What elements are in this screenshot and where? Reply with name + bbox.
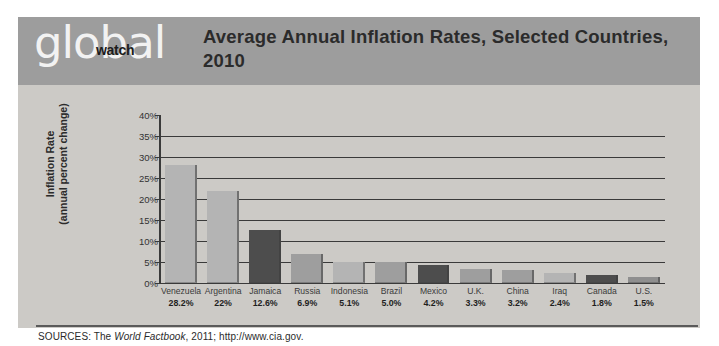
header-band: global watch Average Annual Inflation Ra… — [18, 17, 700, 85]
bar-slot — [623, 115, 665, 283]
bar-slot — [286, 115, 328, 283]
plot-canvas — [160, 115, 665, 283]
category-name: Jamaica — [244, 285, 286, 297]
category-group: Mexico4.2% — [412, 285, 454, 319]
category-value: 1.8% — [581, 297, 623, 309]
bar-canada — [586, 275, 618, 283]
bar-slot — [497, 115, 539, 283]
category-name: Indonesia — [328, 285, 370, 297]
category-group: U.K.3.3% — [455, 285, 497, 319]
category-value: 1.5% — [623, 297, 665, 309]
y-axis-tick-40: 40% — [114, 110, 158, 121]
y-tick-mark — [155, 115, 160, 116]
category-value: 28.2% — [160, 297, 202, 309]
category-group: China3.2% — [497, 285, 539, 319]
y-tick-mark — [155, 178, 160, 179]
bar-argentina — [207, 191, 239, 283]
category-group: Russia6.9% — [286, 285, 328, 319]
category-name: U.S. — [623, 285, 665, 297]
y-axis-label-line1: Inflation Rate — [44, 79, 57, 249]
footer-divider — [36, 325, 698, 327]
category-name: Brazil — [370, 285, 412, 297]
category-name: Argentina — [202, 285, 244, 297]
category-group: Indonesia5.1% — [328, 285, 370, 319]
y-axis-tick-0: 0% — [114, 278, 158, 289]
y-axis-tick-35: 35% — [114, 131, 158, 142]
chart-card: global watch Average Annual Inflation Ra… — [18, 17, 700, 328]
y-axis-tick-labels: 0%5%10%15%20%25%30%35%40% — [114, 115, 158, 283]
category-value: 5.0% — [370, 297, 412, 309]
y-tick-mark — [155, 136, 160, 137]
y-tick-mark — [155, 283, 160, 284]
y-axis-tick-25: 25% — [114, 173, 158, 184]
bar-slot — [581, 115, 623, 283]
category-value: 3.3% — [455, 297, 497, 309]
bar-russia — [291, 254, 323, 283]
y-axis-label: Inflation Rate (annual percent change) — [44, 79, 78, 249]
category-value: 6.9% — [286, 297, 328, 309]
category-value: 4.2% — [412, 297, 454, 309]
y-tick-mark — [155, 157, 160, 158]
category-name: U.K. — [455, 285, 497, 297]
y-axis-label-line2: (annual percent change) — [57, 79, 70, 249]
bar-brazil — [375, 262, 407, 283]
sources-prefix: SOURCES: The — [38, 331, 114, 342]
x-axis-categories: Venezuela28.2%Argentina22%Jamaica12.6%Ru… — [160, 285, 665, 319]
category-name: Mexico — [412, 285, 454, 297]
global-watch-logo: global watch — [34, 19, 194, 75]
category-value: 2.4% — [539, 297, 581, 309]
bar-slot — [539, 115, 581, 283]
sources-suffix: , 2011; http://www.cia.gov. — [186, 331, 304, 342]
y-axis-tick-15: 15% — [114, 215, 158, 226]
category-value: 22% — [202, 297, 244, 309]
y-axis-tick-5: 5% — [114, 257, 158, 268]
bar-china — [502, 270, 534, 283]
y-axis-tick-30: 30% — [114, 152, 158, 163]
bar-slot — [160, 115, 202, 283]
category-group: Venezuela28.2% — [160, 285, 202, 319]
bar-u-s — [628, 277, 660, 283]
bar-mexico — [418, 265, 450, 283]
category-group: Brazil5.0% — [370, 285, 412, 319]
page-root: global watch Average Annual Inflation Ra… — [0, 0, 719, 346]
bar-slot — [328, 115, 370, 283]
category-group: U.S.1.5% — [623, 285, 665, 319]
bar-slot — [370, 115, 412, 283]
bar-venezuela — [165, 165, 197, 283]
bar-slot — [412, 115, 454, 283]
bar-slot — [202, 115, 244, 283]
bar-slot — [244, 115, 286, 283]
bar-series — [160, 115, 665, 283]
category-value: 12.6% — [244, 297, 286, 309]
category-group: Canada1.8% — [581, 285, 623, 319]
sources-note: SOURCES: The World Factbook, 2011; http:… — [38, 331, 304, 342]
bar-jamaica — [249, 230, 281, 283]
y-tick-mark — [155, 262, 160, 263]
category-name: Canada — [581, 285, 623, 297]
logo-watch-text: watch — [96, 43, 134, 57]
chart-plot-area: Inflation Rate (annual percent change) 0… — [18, 85, 700, 328]
y-tick-mark — [155, 220, 160, 221]
category-group: Argentina22% — [202, 285, 244, 319]
category-group: Iraq2.4% — [539, 285, 581, 319]
category-name: Russia — [286, 285, 328, 297]
category-name: China — [497, 285, 539, 297]
bar-slot — [455, 115, 497, 283]
category-value: 5.1% — [328, 297, 370, 309]
category-name: Iraq — [539, 285, 581, 297]
page-title: Average Annual Inflation Rates, Selected… — [203, 25, 673, 73]
bar-u-k — [460, 269, 492, 283]
y-axis-tick-10: 10% — [114, 236, 158, 247]
sources-title: World Factbook — [114, 331, 185, 342]
y-tick-mark — [155, 241, 160, 242]
bar-iraq — [544, 273, 576, 283]
y-tick-mark — [155, 199, 160, 200]
y-axis-tick-20: 20% — [114, 194, 158, 205]
category-name: Venezuela — [160, 285, 202, 297]
bar-indonesia — [333, 262, 365, 283]
category-value: 3.2% — [497, 297, 539, 309]
category-group: Jamaica12.6% — [244, 285, 286, 319]
